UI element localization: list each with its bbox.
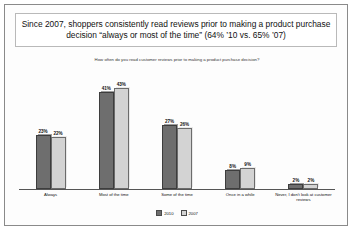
- bar-value-label: 9%: [244, 162, 251, 167]
- legend-item-2010: 2010: [156, 210, 173, 216]
- bar-2010-3: 8%: [225, 71, 240, 189]
- chart-subtitle: How often do you read customer reviews p…: [62, 57, 292, 63]
- bar-value-label: 2%: [293, 178, 300, 183]
- bar-rect: 23%: [36, 135, 51, 189]
- bar-2007-2: 26%: [177, 71, 192, 189]
- chart-legend: 2010 2007: [5, 210, 349, 216]
- x-axis-line: [19, 189, 335, 190]
- bar-group: 41%43%: [97, 71, 131, 189]
- bar-value-label: 8%: [229, 164, 236, 169]
- bar-2010-4: 2%: [288, 71, 303, 189]
- legend-label-2007: 2007: [189, 211, 198, 216]
- legend-swatch-2007: [181, 210, 187, 216]
- bar-2007-4: 2%: [303, 71, 318, 189]
- bar-value-label: 43%: [117, 82, 126, 87]
- legend-item-2007: 2007: [181, 210, 198, 216]
- bar-group: 2%2%: [286, 71, 320, 189]
- bar-rect: 26%: [177, 128, 192, 189]
- bar-value-label: 23%: [38, 129, 47, 134]
- bar-2010-1: 41%: [99, 71, 114, 189]
- bar-rect: 43%: [114, 88, 129, 189]
- chart-frame: Since 2007, shoppers consistently read r…: [4, 4, 348, 226]
- bar-value-label: 27%: [165, 119, 174, 124]
- chart-title: Since 2007, shoppers consistently read r…: [16, 19, 336, 41]
- x-axis-label-3: Once in a while: [220, 192, 260, 197]
- legend-label-2010: 2010: [164, 211, 173, 216]
- bar-rect: 22%: [51, 137, 66, 189]
- bar-rect: 9%: [240, 168, 255, 189]
- bar-2010-0: 23%: [36, 71, 51, 189]
- legend-swatch-2010: [156, 210, 162, 216]
- bar-rect: 27%: [162, 125, 177, 189]
- x-axis-labels: AlwaysMost of the timeSome of the timeOn…: [19, 192, 335, 208]
- x-axis-label-4: Never, I don't look at customer reviews: [273, 192, 333, 202]
- bar-value-label: 26%: [180, 122, 189, 127]
- x-axis-label-1: Most of the time: [92, 192, 136, 197]
- bar-2007-3: 9%: [240, 71, 255, 189]
- bar-2007-0: 22%: [51, 71, 66, 189]
- plot-area: 23%22%41%43%27%26%8%9%2%2%: [19, 71, 335, 189]
- bar-2010-2: 27%: [162, 71, 177, 189]
- bar-rect: 8%: [225, 170, 240, 189]
- x-axis-label-2: Some of the time: [155, 192, 199, 197]
- title-box: Since 2007, shoppers consistently read r…: [15, 13, 337, 47]
- bar-value-label: 41%: [102, 86, 111, 91]
- bar-group: 27%26%: [160, 71, 194, 189]
- bar-value-label: 2%: [308, 178, 315, 183]
- bar-2007-1: 43%: [114, 71, 129, 189]
- x-axis-label-0: Always: [34, 192, 68, 197]
- bar-value-label: 22%: [53, 131, 62, 136]
- bar-group: 8%9%: [223, 71, 257, 189]
- bar-group: 23%22%: [34, 71, 68, 189]
- bar-rect: 41%: [99, 92, 114, 189]
